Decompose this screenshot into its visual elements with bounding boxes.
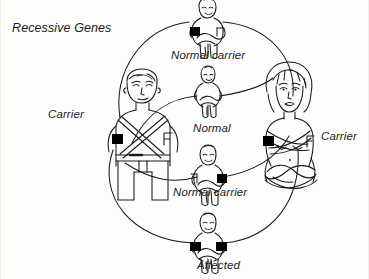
father-normal-allele-marker [164, 133, 172, 145]
label-father-carrier: Carrier [48, 108, 84, 120]
mother-gene-marker [263, 136, 274, 146]
label-child-affected: Affected [197, 259, 240, 271]
curve-father-to-top-child [119, 22, 189, 118]
child-normal-figure [195, 66, 222, 118]
child-affected-gene-marker-left [190, 242, 201, 251]
label-mother-carrier: Carrier [321, 130, 357, 142]
label-child-normal: Normal [193, 122, 231, 134]
child-top-gene-marker [190, 27, 200, 36]
father-gene-marker [112, 134, 123, 144]
curve-normal-child-to-mother [220, 78, 273, 96]
diagram-artwork [1, 0, 369, 279]
label-child-normal-carrier-top: Normal carrier [171, 49, 245, 61]
child-lower-carrier-gene-marker [217, 174, 227, 183]
child-affected-gene-marker-right [216, 242, 227, 251]
mother-figure [265, 62, 317, 188]
curve-lower-carrier-to-mother [223, 136, 289, 177]
diagram-title: Recessive Genes [12, 21, 111, 35]
label-child-normal-carrier-bottom: Normal carrier [173, 186, 247, 198]
recessive-genes-diagram: Recessive Genes Carrier Carrier Normal c… [0, 0, 369, 279]
